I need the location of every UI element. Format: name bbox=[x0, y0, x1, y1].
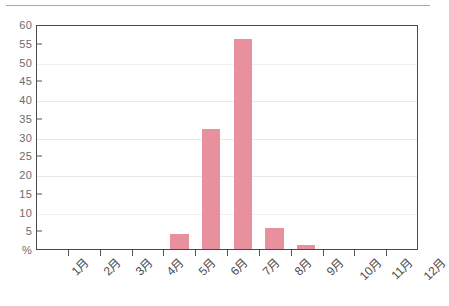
y-axis-labels: 60555045403530252015105% bbox=[0, 25, 32, 250]
x-axis-tick-mark bbox=[132, 250, 133, 256]
y-axis-tick-label: 10 bbox=[0, 207, 32, 218]
bar-slot bbox=[290, 26, 322, 249]
x-axis-tick-mark bbox=[163, 250, 164, 256]
y-axis-tick-label: 55 bbox=[0, 38, 32, 49]
y-axis-tick-label: 40 bbox=[0, 95, 32, 106]
x-axis-tick-label: 11月 bbox=[389, 256, 415, 282]
y-axis-tick-mark bbox=[36, 193, 42, 194]
x-axis-tick-label: 9月 bbox=[324, 256, 346, 278]
y-axis-tick-label: 60 bbox=[0, 20, 32, 31]
x-axis-tick-label: 4月 bbox=[165, 256, 187, 278]
x-axis-tick-label: 12月 bbox=[422, 256, 448, 282]
bar-slot bbox=[354, 26, 386, 249]
y-axis-tick-label: 50 bbox=[0, 57, 32, 68]
x-axis-tick-label: 1月 bbox=[69, 256, 91, 278]
x-axis-tick-mark bbox=[386, 250, 387, 256]
bar-slot bbox=[195, 26, 227, 249]
bar-slot bbox=[385, 26, 417, 249]
bar-7月 bbox=[234, 39, 252, 249]
bar-slot bbox=[100, 26, 132, 249]
x-axis-tick-mark bbox=[323, 250, 324, 256]
bar-slot bbox=[322, 26, 354, 249]
y-axis-tick-label: 25 bbox=[0, 151, 32, 162]
x-axis-tick-mark bbox=[195, 250, 196, 256]
x-axis-tick-mark bbox=[100, 250, 101, 256]
y-axis-tick-label: % bbox=[0, 245, 32, 256]
x-axis-tick-label: 6月 bbox=[229, 256, 251, 278]
bar-slot bbox=[164, 26, 196, 249]
y-axis-tick-mark bbox=[36, 231, 42, 232]
plot-area bbox=[36, 25, 418, 250]
bar-8月 bbox=[265, 228, 283, 249]
x-axis-tick-label: 7月 bbox=[260, 256, 282, 278]
x-axis-tick-mark bbox=[259, 250, 260, 256]
y-axis-tick-label: 5 bbox=[0, 226, 32, 237]
x-axis-tick-mark bbox=[227, 250, 228, 256]
y-axis-tick-mark bbox=[36, 43, 42, 44]
x-axis-tick-label: 5月 bbox=[197, 256, 219, 278]
bar-slot bbox=[69, 26, 101, 249]
bar-slot bbox=[227, 26, 259, 249]
y-axis-tick-mark bbox=[36, 156, 42, 157]
bar-slot bbox=[37, 26, 69, 249]
bar-slot bbox=[259, 26, 291, 249]
x-axis-tick-label: 2月 bbox=[101, 256, 123, 278]
x-axis-labels: 1月2月3月4月5月6月7月8月9月10月11月12月 bbox=[36, 256, 418, 306]
bar-5月 bbox=[170, 234, 188, 249]
top-divider-rule bbox=[6, 5, 430, 6]
y-axis-tick-mark bbox=[36, 81, 42, 82]
x-axis-tick-label: 8月 bbox=[292, 256, 314, 278]
y-axis-tick-mark bbox=[36, 118, 42, 119]
y-axis-tick-label: 35 bbox=[0, 113, 32, 124]
bar-6月 bbox=[202, 129, 220, 249]
bar-series bbox=[37, 26, 417, 249]
x-axis-tick-label: 10月 bbox=[358, 256, 384, 282]
y-axis-tick-label: 15 bbox=[0, 188, 32, 199]
bar-9月 bbox=[297, 245, 315, 249]
x-axis-tick-mark bbox=[354, 250, 355, 256]
y-axis-tick-label: 30 bbox=[0, 132, 32, 143]
y-axis-tick-label: 20 bbox=[0, 170, 32, 181]
x-axis-tick-mark bbox=[291, 250, 292, 256]
x-axis-tick-mark bbox=[68, 250, 69, 256]
bar-slot bbox=[132, 26, 164, 249]
y-axis-tick-label: 45 bbox=[0, 76, 32, 87]
x-axis-tick-label: 3月 bbox=[133, 256, 155, 278]
